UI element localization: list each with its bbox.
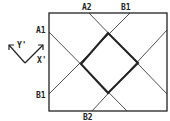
label-b1-top: B1	[121, 3, 131, 12]
bold-diamond	[81, 33, 138, 93]
label-b1-left: B1	[36, 91, 46, 100]
label-axis-y: Y'	[17, 41, 27, 50]
outer-rectangle	[49, 13, 167, 111]
label-a2-top: A2	[82, 3, 92, 12]
diagram-canvas: A2 B1 A1 B1 B2 Y' X'	[0, 0, 170, 121]
label-a1-left: A1	[36, 26, 46, 35]
label-axis-x: X'	[37, 56, 47, 65]
label-b2-bottom: B2	[83, 113, 93, 121]
